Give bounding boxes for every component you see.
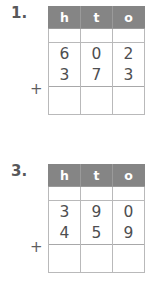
addend-row-first: 3 9 0 xyxy=(49,201,145,223)
problem-3: 3. + h t o 3 9 0 4 5 9 xyxy=(0,158,162,298)
spacer-cell-hundreds xyxy=(49,187,81,201)
problem-1: 1. + h t o 6 0 2 3 7 3 xyxy=(0,0,162,148)
addend1-digit-tens: 9 xyxy=(81,201,113,223)
addend-row-second: 4 5 9 xyxy=(49,223,145,245)
spacer-row xyxy=(49,187,145,201)
addend2-digit-hundreds: 4 xyxy=(49,223,81,245)
column-header-hundreds: h xyxy=(49,7,81,29)
addend-row-second: 3 7 3 xyxy=(49,65,145,87)
table-header-row: h t o xyxy=(49,7,145,29)
answer-row xyxy=(49,87,145,114)
answer-cell-hundreds[interactable] xyxy=(49,87,81,114)
answer-cell-ones[interactable] xyxy=(113,245,145,272)
spacer-cell-tens xyxy=(81,187,113,201)
spacer-cell-ones xyxy=(113,187,145,201)
answer-cell-hundreds[interactable] xyxy=(49,245,81,272)
plus-operator-symbol: + xyxy=(30,240,43,255)
addend1-digit-ones: 0 xyxy=(113,201,145,223)
addend1-digit-hundreds: 3 xyxy=(49,201,81,223)
answer-cell-ones[interactable] xyxy=(113,87,145,114)
place-value-table-1: h t o 6 0 2 3 7 3 xyxy=(48,6,145,115)
column-header-tens: t xyxy=(81,7,113,29)
addend2-digit-tens: 5 xyxy=(81,223,113,245)
problem-number-label: 3. xyxy=(11,164,27,179)
addend2-digit-ones: 3 xyxy=(113,65,145,87)
answer-cell-tens[interactable] xyxy=(81,87,113,114)
addend-row-first: 6 0 2 xyxy=(49,43,145,65)
spacer-row xyxy=(49,29,145,43)
answer-row xyxy=(49,245,145,272)
spacer-cell-ones xyxy=(113,29,145,43)
spacer-cell-hundreds xyxy=(49,29,81,43)
column-header-hundreds: h xyxy=(49,165,81,187)
addend1-digit-hundreds: 6 xyxy=(49,43,81,65)
answer-cell-tens[interactable] xyxy=(81,245,113,272)
problem-number-label: 1. xyxy=(11,6,27,21)
column-header-tens: t xyxy=(81,165,113,187)
addend1-digit-tens: 0 xyxy=(81,43,113,65)
column-header-ones: o xyxy=(113,165,145,187)
addend2-digit-hundreds: 3 xyxy=(49,65,81,87)
spacer-cell-tens xyxy=(81,29,113,43)
column-header-ones: o xyxy=(113,7,145,29)
plus-operator-symbol: + xyxy=(30,82,43,97)
addend1-digit-ones: 2 xyxy=(113,43,145,65)
place-value-table-3: h t o 3 9 0 4 5 9 xyxy=(48,164,145,273)
table-header-row: h t o xyxy=(49,165,145,187)
addend2-digit-tens: 7 xyxy=(81,65,113,87)
addend2-digit-ones: 9 xyxy=(113,223,145,245)
